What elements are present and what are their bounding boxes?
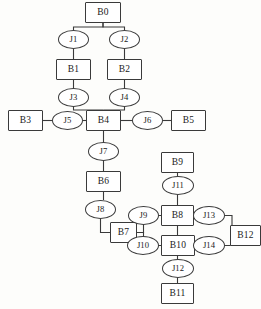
- node-label-b10: B10: [170, 240, 186, 250]
- node-label-b7: B7: [118, 227, 130, 237]
- node-label-b0: B0: [97, 7, 109, 17]
- node-b3[interactable]: B3: [8, 110, 43, 131]
- node-j2[interactable]: J2: [109, 30, 140, 49]
- node-label-j2: J2: [121, 35, 129, 44]
- node-b12[interactable]: B12: [230, 225, 261, 246]
- node-j7[interactable]: J7: [88, 142, 119, 161]
- node-j6[interactable]: J6: [132, 111, 163, 130]
- node-label-j4: J4: [121, 93, 129, 102]
- node-b9[interactable]: B9: [161, 152, 194, 173]
- node-label-b5: B5: [183, 115, 195, 125]
- node-label-b3: B3: [20, 115, 32, 125]
- node-label-b11: B11: [169, 288, 185, 298]
- node-j3[interactable]: J3: [58, 88, 89, 107]
- node-b5[interactable]: B5: [171, 110, 206, 131]
- node-label-b6: B6: [98, 176, 110, 186]
- node-j10[interactable]: J10: [127, 236, 159, 255]
- edge-B0-J2: [103, 23, 125, 30]
- node-b6[interactable]: B6: [86, 171, 121, 192]
- node-label-b1: B1: [68, 64, 80, 74]
- node-label-j10: J10: [137, 241, 149, 250]
- node-label-j9: J9: [140, 211, 148, 220]
- edge-J8-B7: [101, 219, 111, 233]
- node-label-j14: J14: [203, 241, 215, 250]
- node-label-j5: J5: [64, 116, 72, 125]
- node-b1[interactable]: B1: [56, 59, 91, 80]
- node-label-b2: B2: [119, 64, 131, 74]
- node-j4[interactable]: J4: [109, 88, 140, 107]
- node-label-b4: B4: [98, 115, 110, 125]
- node-j12[interactable]: J12: [162, 259, 194, 278]
- node-label-b9: B9: [172, 157, 184, 167]
- node-j13[interactable]: J13: [193, 206, 225, 225]
- node-b10[interactable]: B10: [161, 235, 195, 256]
- node-b8[interactable]: B8: [161, 205, 194, 226]
- node-label-j8: J8: [97, 205, 105, 214]
- node-label-b8: B8: [172, 210, 184, 220]
- node-j14[interactable]: J14: [193, 236, 225, 255]
- node-b2[interactable]: B2: [107, 59, 142, 80]
- node-label-b12: B12: [237, 230, 253, 240]
- node-j5[interactable]: J5: [52, 111, 83, 130]
- node-label-j6: J6: [144, 116, 152, 125]
- node-label-j7: J7: [100, 147, 108, 156]
- node-j8[interactable]: J8: [85, 200, 116, 219]
- node-label-j1: J1: [70, 35, 78, 44]
- node-b11[interactable]: B11: [161, 283, 194, 304]
- node-label-j11: J11: [172, 181, 184, 190]
- node-label-j3: J3: [70, 93, 78, 102]
- node-b4[interactable]: B4: [86, 110, 121, 131]
- node-j1[interactable]: J1: [58, 30, 89, 49]
- node-label-j13: J13: [203, 211, 215, 220]
- node-j11[interactable]: J11: [162, 176, 194, 195]
- node-j9[interactable]: J9: [128, 206, 159, 225]
- node-label-j12: J12: [172, 264, 184, 273]
- block-diagram: B0J1J2B1B2J3J4B3J5B4J6B5J7B6J8B7B9J11J9B…: [0, 0, 261, 309]
- edge-B0-J1: [74, 23, 104, 30]
- node-b0[interactable]: B0: [85, 2, 121, 23]
